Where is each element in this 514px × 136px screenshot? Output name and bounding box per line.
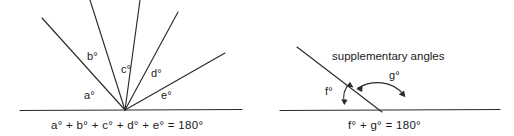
f-arc-arrow-bottom <box>341 99 347 105</box>
left-diagram-group <box>20 0 242 111</box>
angle-label-b: b° <box>87 51 98 62</box>
g-angle-arc <box>358 83 404 95</box>
ray-c <box>125 0 140 110</box>
g-arc-arrow-right <box>399 91 406 98</box>
supplementary-angles-caption: supplementary angles <box>332 51 445 63</box>
angle-label-f: f° <box>325 86 333 97</box>
angle-label-d: d° <box>151 68 162 79</box>
angle-label-c: c° <box>121 64 131 75</box>
angle-label-g: g° <box>389 70 400 81</box>
figure-canvas <box>0 0 514 136</box>
right-equation: f° + g° = 180° <box>348 120 421 132</box>
left-baseline <box>20 110 242 111</box>
g-arc-arrow-left <box>356 85 362 92</box>
angle-label-a: a° <box>84 90 95 101</box>
right-baseline <box>280 110 500 111</box>
left-equation: a° + b° + c° + d° + e° = 180° <box>51 120 203 132</box>
geometry-figure: a° b° c° d° e° a° + b° + c° + d° + e° = … <box>0 0 514 136</box>
angle-label-e: e° <box>161 90 172 101</box>
